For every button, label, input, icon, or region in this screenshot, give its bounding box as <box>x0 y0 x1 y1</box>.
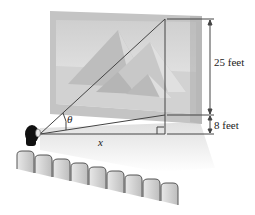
seat <box>71 163 88 185</box>
seat <box>107 171 124 193</box>
label-theta: θ <box>67 113 73 125</box>
seat <box>53 159 70 181</box>
seat <box>89 167 106 189</box>
seat <box>17 151 34 173</box>
label-8-feet: 8 feet <box>214 119 239 131</box>
label-25-feet: 25 feet <box>214 56 244 68</box>
seat <box>35 155 52 177</box>
seat <box>161 183 178 205</box>
seat <box>125 175 142 197</box>
dimension-8-feet <box>208 116 212 133</box>
label-x: x <box>97 136 103 148</box>
diagram-canvas: 25 feet 8 feet θ x <box>0 0 255 215</box>
theater-viewing-angle-diagram: 25 feet 8 feet θ x <box>0 0 255 215</box>
viewer-person <box>25 125 41 146</box>
dimension-25-feet <box>208 20 212 114</box>
movie-screen <box>50 11 202 124</box>
seat <box>143 179 160 201</box>
